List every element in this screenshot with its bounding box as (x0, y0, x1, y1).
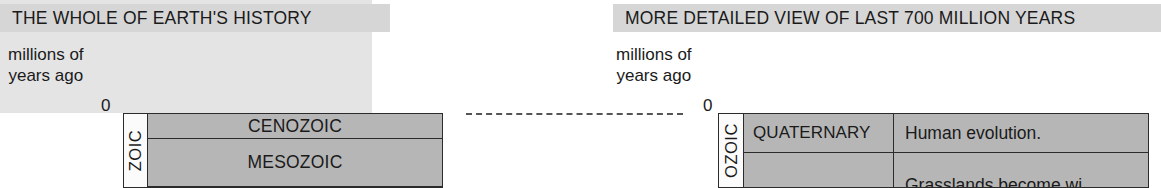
table-row: Grasslands become wi (744, 153, 1148, 188)
era-name: CENOZOIC (248, 116, 342, 137)
left-axis-caption-line1: millions of (8, 44, 84, 65)
event-text: Grasslands become wi (905, 175, 1082, 188)
table-row: QUATERNARY Human evolution. (744, 114, 1148, 153)
right-axis-caption-line2: years ago (616, 65, 692, 86)
left-panel-banner: THE WHOLE OF EARTH'S HISTORY (0, 4, 390, 32)
right-eon-spine: OZOIC (719, 114, 744, 187)
left-timescale-table: ZOIC CENOZOIC MESOZOIC (123, 113, 443, 188)
left-eon-spine: ZOIC (124, 114, 148, 187)
right-axis-caption-line1: millions of (616, 44, 692, 65)
table-row: MESOZOIC (148, 139, 442, 187)
event-text: Human evolution. (905, 123, 1041, 144)
right-timescale-table: OZOIC QUATERNARY Human evolution. Grassl… (718, 113, 1149, 188)
right-eon-label: OZOIC (722, 123, 741, 178)
left-panel: THE WHOLE OF EARTH'S HISTORY millions of… (0, 0, 460, 175)
left-panel-title: THE WHOLE OF EARTH'S HISTORY (12, 8, 312, 29)
left-axis-caption-line2: years ago (8, 65, 84, 86)
left-axis-caption: millions of years ago (8, 44, 84, 86)
right-panel-banner: MORE DETAILED VIEW OF LAST 700 MILLION Y… (613, 4, 1161, 32)
right-detail-rows: QUATERNARY Human evolution. Grasslands b… (744, 114, 1148, 187)
left-era-rows: CENOZOIC MESOZOIC (148, 114, 442, 187)
right-panel: MORE DETAILED VIEW OF LAST 700 MILLION Y… (600, 0, 1149, 175)
era-name: MESOZOIC (248, 152, 343, 173)
left-eon-label: ZOIC (126, 130, 145, 171)
period-name: QUATERNARY (753, 123, 871, 143)
table-row: CENOZOIC (148, 114, 442, 139)
period-cell: QUATERNARY (744, 114, 894, 152)
right-panel-title: MORE DETAILED VIEW OF LAST 700 MILLION Y… (625, 8, 1075, 29)
left-zero-tick-label: 0 (101, 96, 110, 116)
period-cell (744, 153, 894, 188)
event-cell: Human evolution. (894, 114, 1148, 152)
event-cell: Grasslands become wi (894, 153, 1148, 188)
right-axis-caption: millions of years ago (616, 44, 692, 86)
right-zero-tick-label: 0 (703, 96, 712, 116)
